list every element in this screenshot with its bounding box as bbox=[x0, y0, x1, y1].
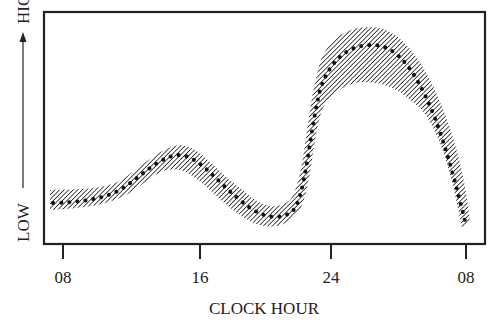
x-ticks bbox=[63, 244, 466, 259]
x-axis-title: CLOCK HOUR bbox=[209, 299, 320, 318]
arrow-up-icon bbox=[20, 32, 27, 42]
x-tick-label-1: 16 bbox=[192, 268, 209, 287]
x-tick-label-0: 08 bbox=[55, 268, 72, 287]
variability-band bbox=[50, 27, 470, 228]
x-tick-label-3: 08 bbox=[458, 268, 475, 287]
y-label-low: LOW bbox=[14, 202, 33, 242]
y-label-high: HIGH bbox=[14, 0, 33, 24]
x-tick-label-2: 24 bbox=[323, 268, 341, 287]
circadian-chart: 08 16 24 08 CLOCK HOUR LOW HIGH bbox=[0, 0, 496, 326]
y-axis-indicator: LOW HIGH bbox=[14, 0, 33, 242]
